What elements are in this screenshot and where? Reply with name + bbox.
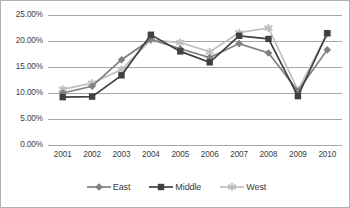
y-tick-label: 25.00% — [16, 11, 43, 19]
x-tick-label: 2003 — [113, 151, 131, 159]
y-tick-label: 15.00% — [16, 63, 43, 71]
series-layer — [48, 15, 342, 145]
star-marker-icon — [219, 181, 245, 193]
diamond-marker-icon — [86, 181, 112, 193]
x-tick-label: 2006 — [201, 151, 219, 159]
x-tick-label: 2010 — [318, 151, 336, 159]
x-tick-label: 2009 — [289, 151, 307, 159]
series-west — [59, 24, 331, 94]
x-axis: 2001200220032004200520062007200820092010 — [48, 151, 342, 167]
legend-item-middle[interactable]: Middle — [148, 181, 201, 193]
x-tick-label: 2002 — [83, 151, 101, 159]
legend-label: East — [113, 183, 131, 192]
x-tick-label: 2007 — [230, 151, 248, 159]
x-tick-label: 2008 — [260, 151, 278, 159]
y-tick-label: 5.00% — [20, 115, 43, 123]
y-tick-label: 20.00% — [16, 37, 43, 45]
plot-area — [48, 15, 342, 145]
legend-label: Middle — [175, 183, 201, 192]
legend-label: West — [246, 183, 266, 192]
legend-item-east[interactable]: East — [86, 181, 131, 193]
y-axis: 0.00%5.00%10.00%15.00%20.00%25.00% — [1, 1, 46, 159]
y-tick-label: 0.00% — [20, 141, 43, 149]
x-tick-label: 2004 — [142, 151, 160, 159]
series-middle — [60, 30, 331, 100]
legend-item-west[interactable]: West — [219, 181, 266, 193]
x-tick-label: 2001 — [54, 151, 72, 159]
line-chart: 0.00%5.00%10.00%15.00%20.00%25.00% 20012… — [0, 0, 350, 208]
chart-legend: EastMiddleWest — [1, 177, 350, 197]
x-tick-label: 2005 — [171, 151, 189, 159]
square-marker-icon — [148, 181, 174, 193]
y-tick-label: 10.00% — [16, 89, 43, 97]
series-east — [59, 36, 331, 97]
